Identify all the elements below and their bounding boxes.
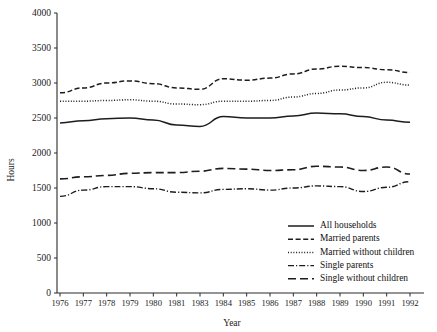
x-tick-label: 1978 (98, 298, 115, 308)
x-tick-label: 1987 (285, 298, 303, 308)
y-tick-label: 1500 (32, 183, 51, 193)
legend-label-3: Single parents (320, 260, 374, 270)
x-tick-label: 1984 (215, 298, 233, 308)
x-tick-label: 1976 (51, 298, 69, 308)
legend-label-4: Single without children (320, 273, 408, 283)
x-axis: 1976197719781979198019811983198419851986… (51, 293, 424, 308)
legend-label-0: All households (320, 220, 377, 230)
x-tick-label: 1977 (75, 298, 93, 308)
x-tick-label: 1991 (378, 298, 395, 308)
y-axis-title: Hours (6, 158, 16, 182)
series-line-3 (60, 182, 410, 197)
x-tick-label: 1988 (308, 298, 325, 308)
y-tick-label: 2000 (32, 148, 51, 158)
y-tick-label: 0 (46, 288, 51, 298)
y-tick-label: 2500 (32, 113, 51, 123)
chart-legend: All householdsMarried parentsMarried wit… (288, 220, 415, 283)
line-chart: 05001000150020002500300035004000 1976197… (0, 0, 437, 332)
x-tick-label: 1985 (238, 298, 255, 308)
x-tick-label: 1979 (121, 298, 138, 308)
x-tick-label: 1980 (145, 298, 162, 308)
legend-label-2: Married without children (320, 247, 415, 257)
y-tick-label: 3000 (32, 78, 51, 88)
series-line-1 (60, 66, 410, 93)
x-tick-label: 1983 (191, 298, 208, 308)
x-axis-title: Year (223, 318, 241, 328)
y-tick-label: 500 (37, 253, 52, 263)
series-line-0 (60, 113, 410, 126)
chart-container: 05001000150020002500300035004000 1976197… (0, 0, 437, 332)
series-lines (60, 66, 410, 196)
y-tick-label: 4000 (32, 8, 51, 18)
x-tick-label: 1990 (355, 298, 372, 308)
x-tick-label: 1981 (168, 298, 185, 308)
x-tick-label: 1989 (331, 298, 348, 308)
x-tick-label: 1986 (261, 298, 279, 308)
series-line-4 (60, 166, 410, 179)
series-line-2 (60, 82, 410, 104)
y-axis: 05001000150020002500300035004000 (32, 8, 57, 298)
y-tick-label: 3500 (32, 43, 51, 53)
legend-label-1: Married parents (320, 233, 380, 243)
x-tick-label: 1992 (401, 298, 418, 308)
y-tick-label: 1000 (32, 218, 51, 228)
